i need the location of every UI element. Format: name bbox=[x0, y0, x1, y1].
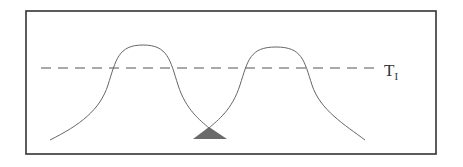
diagram-canvas: TI bbox=[0, 0, 463, 167]
threshold-label: TI bbox=[384, 61, 398, 82]
right-peak-curve bbox=[209, 47, 365, 140]
diagram-frame bbox=[26, 11, 436, 154]
left-peak-curve bbox=[50, 45, 209, 140]
intersection-triangle-marker bbox=[193, 127, 227, 139]
